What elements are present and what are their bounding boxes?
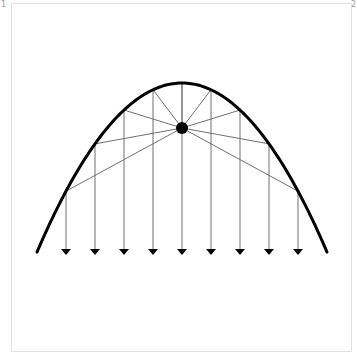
- arrowhead-icon: [61, 249, 71, 255]
- arrowhead-icon: [90, 249, 100, 255]
- arrowhead-icon: [148, 249, 158, 255]
- parabolic-reflector-diagram: [0, 0, 357, 354]
- arrowhead-icon: [293, 249, 303, 255]
- incident-ray: [182, 90, 211, 128]
- incident-ray: [95, 128, 182, 144]
- arrowhead-icon: [119, 249, 129, 255]
- incident-ray: [153, 90, 182, 128]
- arrowhead-icon: [264, 249, 274, 255]
- arrowhead-icon: [177, 249, 187, 255]
- incident-ray: [182, 128, 269, 144]
- rays-group: [61, 83, 303, 255]
- focus-point: [176, 122, 188, 134]
- arrowhead-icon: [206, 249, 216, 255]
- arrowhead-icon: [235, 249, 245, 255]
